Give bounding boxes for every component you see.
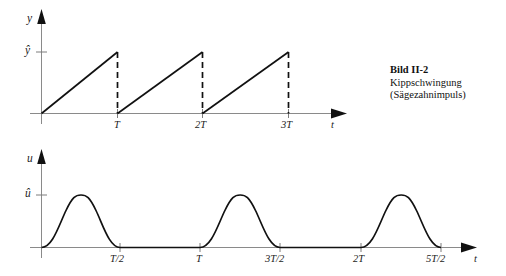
halfsine-xtick-label-T: T: [196, 254, 202, 265]
sawtooth-t-axis-arrowhead: [331, 109, 347, 119]
sawtooth-xtick-label-2T: 2T: [195, 120, 206, 131]
halfsine-pulse-1: [42, 195, 121, 248]
figure-caption-title: Bild II-2: [390, 64, 502, 77]
sawtooth-y-axis-arrowhead: [37, 9, 46, 24]
halfsine-xtick-label-T2: T/2: [110, 254, 124, 265]
figure-caption-line-1: Kippschwingung: [390, 77, 502, 90]
figure-graphics: [0, 0, 506, 276]
halfsine-u-axis-label: u: [27, 153, 33, 165]
sawtooth-ramp-2: [118, 52, 203, 114]
halfsine-t-axis-arrowhead: [461, 243, 477, 253]
halfsine-uhat-label: û: [25, 188, 31, 200]
figure-caption: Bild II-2 Kippschwingung (Sägezahnimpuls…: [390, 64, 502, 102]
sawtooth-xtick-label-3T: 3T: [281, 120, 292, 131]
halfsine-xtick-label-5T2: 5T/2: [426, 254, 445, 265]
sawtooth-ramp-1: [42, 52, 118, 114]
figure-caption-line-2: (Sägezahnimpuls): [390, 89, 502, 102]
halfsine-t-axis-label: t: [474, 254, 477, 265]
halfsine-xtick-label-2T: 2T: [353, 254, 364, 265]
sawtooth-ramp-3: [203, 52, 289, 114]
sawtooth-xtick-label-T: T: [114, 120, 120, 131]
halfsine-xtick-label-3T2: 3T/2: [265, 254, 284, 265]
sawtooth-t-axis-label: t: [331, 120, 334, 131]
halfsine-pulse-3: [361, 195, 441, 248]
halfsine-pulse-2: [200, 195, 280, 248]
figure-root: y ŷ T 2T 3T t u û T/2 T 3T/2 2T 5T/2 t B…: [0, 0, 506, 276]
sawtooth-y-axis-label: y: [27, 13, 32, 25]
sawtooth-yhat-label: ŷ: [25, 45, 30, 57]
sawtooth-chart: [30, 9, 347, 124]
halfsine-chart: [30, 149, 477, 258]
halfsine-u-axis-arrowhead: [37, 149, 46, 164]
